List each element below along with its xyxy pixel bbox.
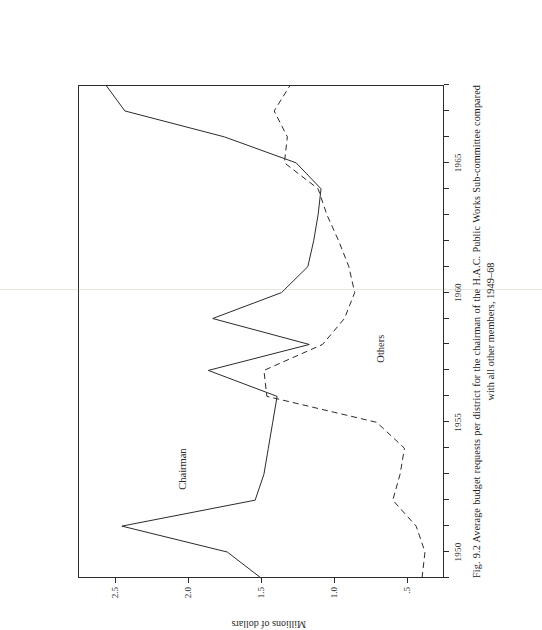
y-axis-label: 2.5: [110, 587, 120, 618]
x-axis-tick: [444, 395, 449, 396]
x-axis-tick: [444, 162, 449, 163]
x-axis-tick: [444, 343, 449, 344]
y-axis-tick: [334, 578, 335, 583]
x-axis-tick: [444, 188, 449, 189]
x-axis-label: 1950: [453, 543, 463, 562]
x-axis-label: 1960: [453, 283, 463, 302]
chart-canvas: [78, 85, 444, 578]
y-axis-label: .5: [402, 587, 412, 618]
x-axis-tick: [444, 110, 449, 111]
x-axis-tick: [444, 84, 449, 85]
x-axis-tick: [444, 136, 449, 137]
x-axis-tick: [444, 369, 449, 370]
y-axis-title: Millions of dollars: [232, 619, 306, 630]
y-axis-tick: [115, 578, 116, 583]
x-axis-tick: [444, 447, 449, 448]
y-axis-label: 2.0: [183, 587, 193, 618]
series-label-others: Others: [375, 335, 386, 363]
y-axis-tick: [261, 578, 262, 583]
y-axis-label: 1.0: [329, 587, 339, 618]
x-axis-tick: [444, 499, 449, 500]
x-axis-tick: [444, 266, 449, 267]
x-axis-tick: [444, 240, 449, 241]
series-line-others: [264, 85, 425, 578]
x-axis-label: 1965: [453, 153, 463, 172]
x-axis-tick: [444, 551, 449, 552]
figure-number: Fig. 9.2: [471, 545, 482, 578]
series-label-chairman: Chairman: [177, 448, 188, 489]
x-axis-tick: [444, 318, 449, 319]
x-axis-tick: [444, 214, 449, 215]
series-line-chairman: [106, 85, 321, 578]
y-axis-label: 1.5: [256, 587, 266, 618]
x-axis-tick: [444, 473, 449, 474]
y-axis-tick: [188, 578, 189, 583]
x-axis-tick: [444, 292, 449, 293]
x-axis-tick: [444, 525, 449, 526]
x-axis-label: 1955: [453, 413, 463, 432]
x-axis-tick: [444, 421, 449, 422]
x-axis-tick: [444, 577, 449, 578]
y-axis-tick: [407, 578, 408, 583]
figure-caption-text: Average budget requests per district for…: [471, 85, 496, 542]
figure-caption: Fig. 9.2 Average budget requests per dis…: [470, 85, 498, 578]
